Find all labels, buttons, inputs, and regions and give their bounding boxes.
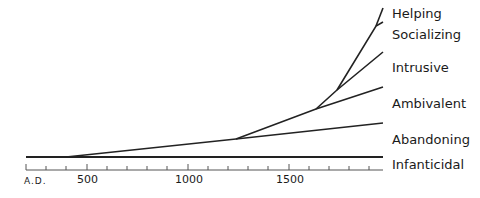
label-intrusive: Intrusive (392, 61, 449, 75)
intrusive-line (316, 52, 383, 109)
tick-label-1000: 1000 (175, 174, 203, 186)
label-ambivalent: Ambivalent (392, 97, 466, 111)
x-axis-ticks (26, 164, 369, 170)
label-abandoning: Abandoning (392, 133, 470, 147)
abandoning-line (66, 123, 383, 157)
socializing-line (337, 22, 383, 90)
tick-label-ad: A.D. (24, 175, 47, 187)
tick-label-1500: 1500 (276, 174, 304, 186)
label-helping: Helping (392, 7, 442, 21)
label-socializing: Socializing (392, 28, 461, 42)
label-infanticidal: Infanticidal (392, 158, 464, 172)
tick-label-500: 500 (77, 174, 98, 186)
